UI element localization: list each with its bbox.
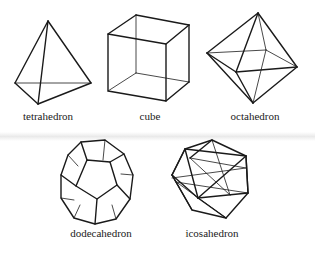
- icosahedron-label: icosahedron: [185, 227, 238, 239]
- dodecahedron-figure: [61, 140, 133, 224]
- tetrahedron-figure: [15, 21, 91, 104]
- polyhedra-diagram: [0, 0, 315, 254]
- dodecahedron-label: dodecahedron: [70, 227, 132, 239]
- octahedron-label: octahedron: [231, 110, 280, 122]
- cube-label: cube: [140, 110, 161, 122]
- octahedron-figure: [207, 13, 297, 103]
- tetrahedron-label: tetrahedron: [23, 110, 73, 122]
- cube-figure: [108, 15, 189, 101]
- icosahedron-figure: [172, 140, 248, 218]
